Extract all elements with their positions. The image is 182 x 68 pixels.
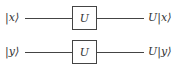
- wire-in-x: [25, 18, 73, 19]
- wire-in-y: [25, 52, 73, 53]
- wire-out-y: [97, 52, 144, 53]
- gate-u-x: U: [72, 6, 97, 30]
- wire-out-x: [97, 18, 144, 19]
- input-label-x: |x⟩: [5, 12, 19, 24]
- gate-u-y: U: [72, 40, 97, 64]
- input-label-y: |y⟩: [5, 46, 19, 58]
- output-label-x: U|x⟩: [148, 12, 171, 24]
- output-label-y: U|y⟩: [148, 46, 171, 58]
